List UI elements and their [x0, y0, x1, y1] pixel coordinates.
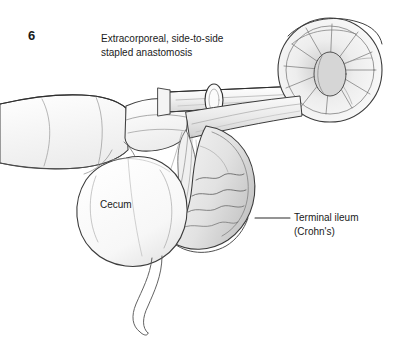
- figure-number: 6: [28, 28, 35, 43]
- figure-caption: Extracorporeal, side-to-side stapled ana…: [101, 32, 223, 59]
- appendix: [133, 256, 162, 335]
- cecum: [77, 157, 187, 267]
- label-terminal-ileum: Terminal ileum (Crohn's): [294, 211, 358, 238]
- figure-container: 6 Extracorporeal, side-to-side stapled a…: [0, 0, 400, 350]
- label-cecum: Cecum: [100, 199, 132, 210]
- illustration-ink: [0, 18, 382, 335]
